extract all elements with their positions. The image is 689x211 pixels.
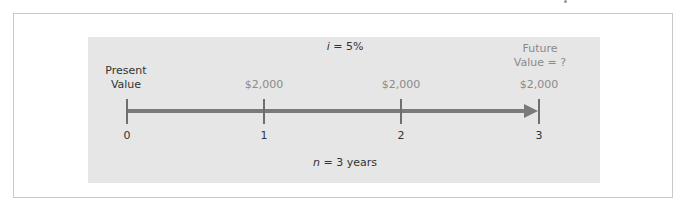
tick-period-0: [126, 99, 128, 124]
interest-rate-value: = 5%: [330, 40, 364, 53]
future-value-label: Future Value = ?: [505, 42, 575, 70]
timeline-line: [127, 109, 527, 113]
period-count-value: = 3 years: [320, 156, 377, 169]
future-value-line1: Future: [505, 42, 575, 56]
tick-period-1: [263, 99, 265, 124]
present-value-label: Present Value: [96, 64, 156, 92]
period-index-0: 0: [117, 129, 137, 143]
period-index-3: 3: [529, 129, 549, 143]
present-value-line2: Value: [96, 78, 156, 92]
scan-artifact: [564, 0, 567, 3]
present-value-line1: Present: [96, 64, 156, 78]
arrow-head-icon: [524, 104, 538, 118]
future-value-line2: Value = ?: [505, 56, 575, 70]
tick-period-3: [538, 99, 540, 124]
interest-rate-label: i = 5%: [300, 40, 390, 54]
period-index-1: 1: [254, 129, 274, 143]
cash-flow-period-1: $2,000: [234, 78, 294, 92]
period-count-variable: n: [313, 156, 320, 169]
period-count-label: n = 3 years: [290, 156, 400, 170]
tick-period-2: [400, 99, 402, 124]
period-index-2: 2: [391, 129, 411, 143]
cash-flow-period-3: $2,000: [509, 78, 569, 92]
cash-flow-period-2: $2,000: [371, 78, 431, 92]
